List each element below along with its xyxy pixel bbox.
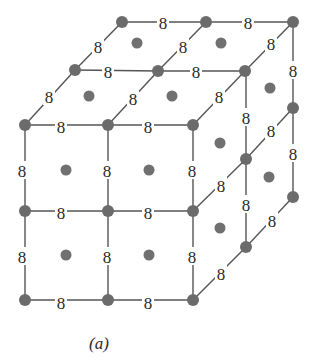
edge-label: 8 (192, 63, 201, 82)
edge-label: 8 (217, 265, 226, 284)
lattice-node-dot (102, 294, 114, 306)
edge-label: 8 (18, 162, 27, 181)
figure-caption-text: (a) (89, 334, 109, 353)
edge-label: 8 (188, 162, 197, 181)
face-center-dot (61, 165, 72, 176)
edge-label: 8 (18, 248, 27, 267)
face-center-dot (167, 91, 178, 102)
edge-label: 8 (242, 196, 251, 215)
edge-label: 8 (144, 204, 153, 223)
edge-label: 8 (268, 212, 277, 231)
edge-label: 8 (289, 145, 298, 164)
lattice-node-dot (187, 294, 199, 306)
lattice-node-dot (187, 205, 199, 217)
lattice-node-dot (102, 119, 114, 131)
face-center-dot (132, 38, 143, 49)
cubic-lattice-diagram: 888888888888888888888888888888 (0, 0, 325, 364)
edge-labels: 888888888888888888888888888888 (16, 13, 299, 313)
lattice-node-dot (240, 153, 252, 165)
lattice-node-dot (287, 102, 299, 114)
face-center-dot (265, 83, 276, 94)
lattice-node-dot (200, 16, 212, 28)
edge-label: 8 (103, 162, 112, 181)
lattice-node-dot (69, 64, 81, 76)
lattice-node-dot (187, 119, 199, 131)
edge-label: 8 (244, 14, 253, 33)
lattice-node-dot (19, 205, 31, 217)
edge-label: 8 (94, 38, 103, 57)
lattice-node-dot (102, 205, 114, 217)
face-center-dot (216, 38, 227, 49)
lattice-node-dot (19, 119, 31, 131)
edge-label: 8 (104, 63, 113, 82)
face-center-dot (144, 250, 155, 261)
edge-label: 8 (242, 109, 251, 128)
edge-label: 8 (159, 14, 168, 33)
lattice-node-dot (240, 241, 252, 253)
edge-label: 8 (215, 88, 224, 107)
lattice-node-dot (116, 16, 128, 28)
face-center-dot (264, 172, 275, 183)
face-center-dot (215, 223, 226, 234)
face-center-dot (215, 138, 226, 149)
face-center-dot (144, 165, 155, 176)
lattice-node-dot (19, 294, 31, 306)
lattice-node-dot (152, 65, 164, 77)
edge-label: 8 (267, 35, 276, 54)
edge-label: 8 (57, 294, 66, 313)
edge-label: 8 (144, 294, 153, 313)
edge-label: 8 (103, 248, 112, 267)
figure-caption: (a) (89, 334, 109, 354)
edge-label: 8 (217, 177, 226, 196)
face-center-dot (61, 250, 72, 261)
edge-label: 8 (188, 248, 197, 267)
edge-label: 8 (57, 118, 66, 137)
edge-label: 8 (267, 122, 276, 141)
edge-label: 8 (45, 88, 54, 107)
face-center-dot (84, 91, 95, 102)
edge-label: 8 (129, 90, 138, 109)
edge-label: 8 (289, 62, 298, 81)
lattice-edge (75, 70, 158, 71)
edge-label: 8 (57, 204, 66, 223)
lattice-node-dot (287, 191, 299, 203)
edge-label: 8 (179, 38, 188, 57)
lattice-node-dot (239, 65, 251, 77)
edge-label: 8 (144, 118, 153, 137)
lattice-node-dot (287, 16, 299, 28)
